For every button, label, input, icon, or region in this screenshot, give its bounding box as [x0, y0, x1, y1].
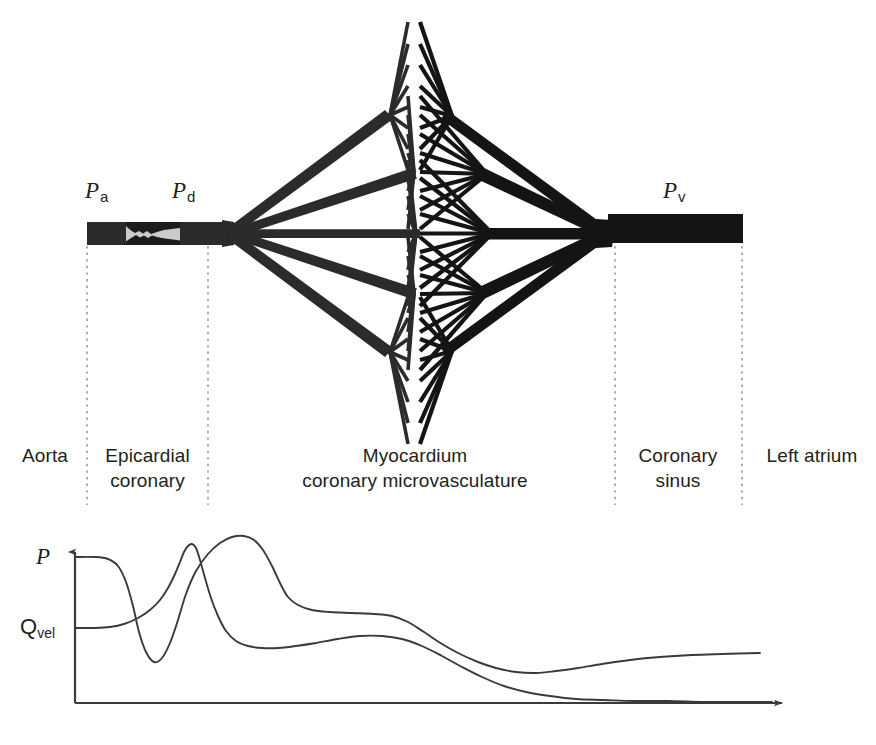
pressure-label-pa: Pa	[85, 178, 108, 205]
zone-label-left-atrium: Left atrium	[752, 443, 872, 468]
zone-label-aorta: Aorta	[5, 443, 85, 468]
zone-label-myocardium: Myocardium coronary microvasculature	[260, 443, 570, 493]
zone-label-coronary-sinus-line2: sinus	[622, 468, 734, 493]
arterial-branch-5	[227, 230, 393, 357]
pressure-curve	[75, 536, 760, 673]
zone-label-aorta-line1: Aorta	[5, 443, 85, 468]
hemodynamics-graph	[75, 536, 782, 703]
diagram-canvas	[0, 0, 876, 745]
graph-series-label-flow-velocity: Qvel	[20, 614, 55, 641]
arterial-tree	[87, 22, 420, 444]
venous-branch-2	[477, 167, 605, 238]
zone-label-epicardial-line2: coronary	[95, 468, 200, 493]
venous-capillary-fan-5	[420, 297, 452, 444]
arterial-branch-4	[227, 229, 417, 299]
arterial-capillary-fan-5	[390, 297, 408, 444]
graph-series-label-pressure: P	[36, 544, 50, 570]
zone-label-epicardial: Epicardial coronary	[95, 443, 200, 493]
venous-branch-4	[477, 229, 605, 300]
zone-label-coronary-sinus-line1: Coronary	[622, 443, 734, 468]
coronary-sinus-trunk	[608, 214, 743, 243]
zone-label-coronary-sinus: Coronary sinus	[622, 443, 734, 493]
arterial-capillary-fan-1	[390, 22, 408, 170]
zone-label-epicardial-line1: Epicardial	[95, 443, 200, 468]
venous-tree	[420, 22, 743, 444]
arterial-branch-2	[227, 168, 417, 238]
zone-label-myocardium-line2: coronary microvasculature	[260, 468, 570, 493]
arterial-branch-1	[227, 110, 393, 237]
arterial-branch-3	[228, 229, 420, 238]
figure-root: Pa Pd Pv Aorta Epicardial coronary Myoca…	[0, 0, 876, 745]
zone-label-left-atrium-line1: Left atrium	[752, 443, 872, 468]
pressure-label-pv: Pv	[663, 178, 686, 205]
pressure-label-pd: Pd	[172, 178, 195, 205]
zone-label-myocardium-line1: Myocardium	[260, 443, 570, 468]
aortic-trunk	[87, 222, 128, 245]
flow-velocity-curve	[75, 544, 772, 702]
